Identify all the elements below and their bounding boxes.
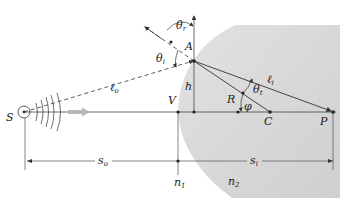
medium-2-region — [178, 25, 340, 198]
vertex-dot — [176, 110, 179, 113]
label-c: C — [264, 115, 273, 128]
label-phi: φ — [244, 100, 252, 113]
label-n1: n1 — [174, 176, 186, 190]
center-dot — [268, 110, 272, 114]
phi-dot — [236, 110, 239, 113]
r-dot — [241, 91, 244, 94]
reflected-ray-arrow — [145, 27, 162, 39]
point-a-dot — [192, 59, 196, 63]
label-theta-r: θr — [176, 19, 187, 33]
h-foot-dot — [192, 110, 195, 113]
label-s: S — [6, 111, 14, 124]
label-r: R — [226, 93, 235, 106]
label-a: A — [184, 40, 193, 53]
refraction-diagram: S V A h R C P φ θr θi θt ℓo ℓi so si n1 … — [0, 0, 348, 208]
label-v: V — [168, 94, 177, 107]
label-h: h — [185, 80, 192, 93]
label-theta-i: θi — [156, 52, 165, 66]
label-l-o: ℓo — [110, 81, 119, 95]
propagation-arrow — [68, 108, 90, 117]
theta-i-arc — [175, 50, 178, 67]
label-p: P — [319, 115, 328, 128]
image-dot — [331, 110, 335, 114]
label-s-o: so — [98, 154, 108, 168]
normal-dot — [170, 41, 173, 44]
